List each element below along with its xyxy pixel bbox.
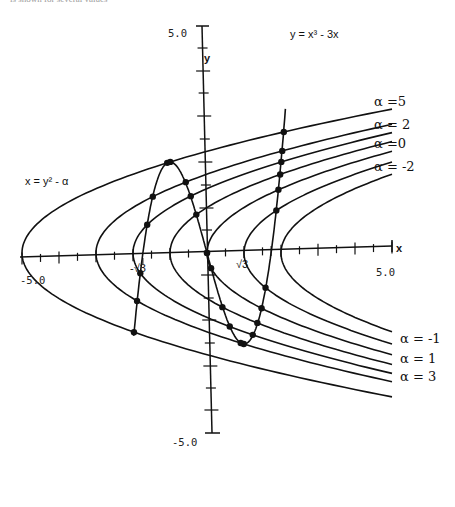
alpha-label-2: α = 2 xyxy=(374,117,410,132)
pos-sqrt3-label: √3 xyxy=(236,258,248,270)
intersection-point xyxy=(262,285,268,291)
intersection-point xyxy=(188,193,194,199)
intersection-point xyxy=(134,298,140,304)
intersection-point xyxy=(273,207,279,213)
parabola-equation-label: x = y² - α xyxy=(25,175,69,187)
axes-group xyxy=(20,26,392,433)
x-axis-label: x xyxy=(396,242,403,254)
intersection-point xyxy=(227,323,233,329)
cubic-equation-text: y = x³ - 3x xyxy=(290,28,339,40)
intersection-point xyxy=(275,187,281,193)
x-min-label: -5.0 xyxy=(20,274,45,286)
intersection-point xyxy=(204,250,210,256)
intersection-point xyxy=(150,193,156,199)
intersection-point xyxy=(250,332,256,338)
y-min-label: -5.0 xyxy=(172,436,197,448)
intersection-point xyxy=(183,179,189,185)
intersection-point xyxy=(258,305,264,311)
x-max-label: 5.0 xyxy=(376,266,395,278)
intersection-point xyxy=(193,211,199,217)
neg-sqrt3-label: -√3 xyxy=(130,262,146,274)
alpha-label-1: α = 1 xyxy=(400,351,436,366)
bifurcation-diagram: 5.0 y -5.0 x -5.0 5.0 -√3 √3 y = x³ - 3x… xyxy=(0,0,455,507)
cubic-equation-label: y = x³ - 3x xyxy=(290,28,339,40)
intersection-point xyxy=(144,222,150,228)
y-max-label: 5.0 xyxy=(168,27,187,39)
intersection-point xyxy=(167,159,173,165)
alpha-label-0: α =0 xyxy=(374,136,406,151)
alpha-label-neg2: α = -2 xyxy=(374,159,415,174)
intersection-point xyxy=(131,329,137,335)
alpha-label-neg1: α = -1 xyxy=(400,331,441,346)
y-axis-label: y xyxy=(204,52,211,64)
intersection-point xyxy=(208,265,214,271)
intersection-point xyxy=(277,171,283,177)
intersection-point xyxy=(237,340,243,346)
alpha-label-5: α =5 xyxy=(374,94,406,109)
intersection-point xyxy=(219,304,225,310)
alpha-label-3: α = 3 xyxy=(400,369,436,384)
intersection-point xyxy=(278,159,284,165)
intersection-point xyxy=(279,148,285,154)
intersection-point xyxy=(281,129,287,135)
intersection-point xyxy=(254,320,260,326)
parabola-equation-text: x = y² - α xyxy=(25,175,69,187)
